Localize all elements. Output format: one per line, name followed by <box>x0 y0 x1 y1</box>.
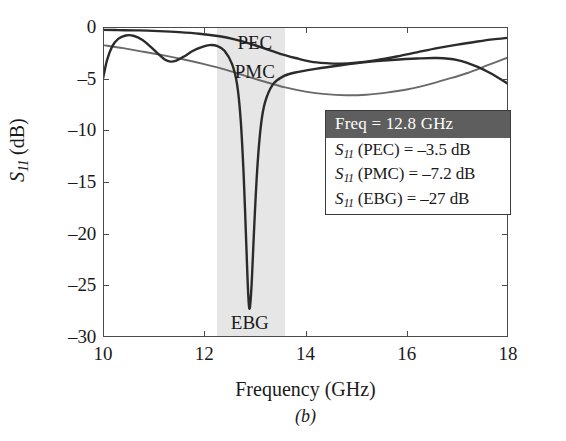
x-tick-mark <box>407 331 408 337</box>
y-tick-label: –20 <box>68 223 96 245</box>
x-tick-label: 18 <box>499 343 518 365</box>
x-tick-mark <box>204 27 205 33</box>
y-tick-mark <box>103 182 109 183</box>
y-tick-mark <box>502 285 508 286</box>
annotation-row: S11 (PEC) = –3.5 dB <box>326 139 510 163</box>
y-tick-label: –5 <box>77 68 96 90</box>
y-axis-unit: (dB) <box>6 118 28 160</box>
annotation-box: Freq = 12.8 GHz S11 (PEC) = –3.5 dBS11 (… <box>325 110 511 215</box>
y-tick-mark <box>502 79 508 80</box>
y-tick-mark <box>103 285 109 286</box>
y-tick-label: 0 <box>87 16 96 38</box>
y-axis-label: S11 (dB) <box>6 118 32 182</box>
figure-caption: (b) <box>103 406 508 427</box>
x-tick-mark <box>407 27 408 33</box>
y-tick-mark <box>502 234 508 235</box>
annotation-header: Freq = 12.8 GHz <box>326 111 510 138</box>
annotation-text: (PMC) = –7.2 dB <box>354 164 476 183</box>
y-tick-label: –15 <box>68 171 96 193</box>
curve-label-pec: PEC <box>237 32 272 54</box>
curve-label-ebg: EBG <box>231 312 269 334</box>
x-tick-mark <box>306 27 307 33</box>
x-tick-mark <box>204 331 205 337</box>
annotation-subscript: 11 <box>343 147 353 161</box>
annotation-text: (PEC) = –3.5 dB <box>354 140 471 159</box>
y-axis-symbol: S <box>6 172 28 182</box>
annotation-rows: S11 (PEC) = –3.5 dBS11 (PMC) = –7.2 dBS1… <box>326 138 510 214</box>
y-tick-label: –10 <box>68 119 96 141</box>
y-tick-label: –25 <box>68 274 96 296</box>
x-tick-label: 14 <box>296 343 315 365</box>
annotation-subscript: 11 <box>343 196 353 210</box>
y-tick-mark <box>103 234 109 235</box>
x-tick-label: 16 <box>397 343 416 365</box>
y-tick-mark <box>103 79 109 80</box>
y-tick-mark <box>103 130 109 131</box>
y-tick-label: –30 <box>68 326 96 348</box>
x-tick-label: 12 <box>195 343 214 365</box>
annotation-text: (EBG) = –27 dB <box>354 189 470 208</box>
annotation-subscript: 11 <box>343 172 353 186</box>
curve-label-pmc: PMC <box>235 61 275 83</box>
x-axis-label: Frequency (GHz) <box>103 378 508 401</box>
annotation-row: S11 (PMC) = –7.2 dB <box>326 163 510 187</box>
x-tick-label: 10 <box>94 343 113 365</box>
x-tick-mark <box>306 331 307 337</box>
figure-panel-b: S11 (dB) Frequency (GHz) (b) 0–5–10–15–2… <box>0 0 566 441</box>
y-axis-subscript: 11 <box>16 160 31 172</box>
annotation-row: S11 (EBG) = –27 dB <box>326 188 510 212</box>
